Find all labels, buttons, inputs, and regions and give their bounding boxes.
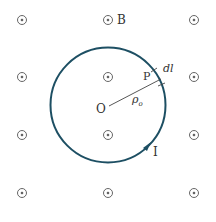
current-label-i: I bbox=[153, 146, 158, 158]
field-dot-icon bbox=[104, 131, 113, 140]
field-dot-icon bbox=[104, 16, 113, 25]
center-label-o: O bbox=[96, 103, 106, 115]
field-dot-icon bbox=[190, 189, 199, 198]
radius-label: ρo bbox=[132, 94, 143, 108]
field-dot-icon bbox=[104, 189, 113, 198]
radius-subscript: o bbox=[138, 100, 142, 108]
field-dot-icon bbox=[18, 16, 27, 25]
field-dot-icon bbox=[104, 73, 113, 82]
field-dot-icon bbox=[18, 73, 27, 82]
field-dot-icon bbox=[18, 131, 27, 140]
diagram-svg bbox=[0, 0, 216, 222]
field-dot-icon bbox=[190, 16, 199, 25]
field-symbols bbox=[18, 16, 199, 198]
field-dot-icon bbox=[190, 73, 199, 82]
field-dot-icon bbox=[190, 131, 199, 140]
diagram-canvas: B O P dl ρo I bbox=[0, 0, 216, 222]
point-label-p: P bbox=[143, 71, 150, 82]
field-dot-icon bbox=[18, 189, 27, 198]
element-label-dl: dl bbox=[163, 63, 174, 74]
field-label-b: B bbox=[117, 14, 126, 26]
